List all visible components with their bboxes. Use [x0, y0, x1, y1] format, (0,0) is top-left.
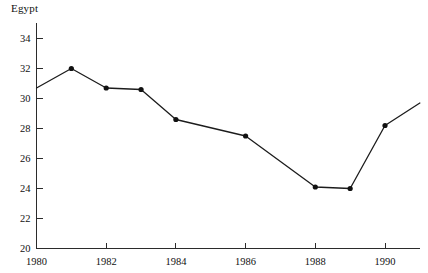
x-tick-label: 1982 — [96, 256, 117, 267]
data-point — [243, 133, 248, 138]
y-tick-label: 32 — [20, 63, 31, 74]
data-point — [173, 117, 178, 122]
y-tick-label: 34 — [20, 33, 31, 44]
x-tick-label: 1990 — [375, 256, 396, 267]
y-axis-tick-labels: 2022242628303234 — [20, 33, 31, 254]
y-tick-label: 26 — [20, 153, 31, 164]
x-tick-label: 1988 — [305, 256, 326, 267]
data-point — [313, 184, 318, 189]
data-series-line — [37, 69, 420, 189]
y-tick-label: 20 — [20, 243, 31, 254]
data-point — [104, 85, 109, 90]
y-axis-ticks — [37, 39, 43, 249]
data-point — [382, 123, 387, 128]
data-point — [348, 186, 353, 191]
data-point-markers — [69, 66, 388, 191]
y-tick-label: 22 — [20, 213, 31, 224]
chart-container: Egypt 2022242628303234 19801982198419861… — [0, 0, 428, 273]
line-chart-plot: 2022242628303234 19801982198419861988199… — [0, 0, 428, 273]
x-axis-tick-labels: 198019821984198619881990 — [26, 256, 396, 267]
x-axis-ticks — [106, 243, 385, 249]
data-point — [69, 66, 74, 71]
x-tick-label: 1986 — [235, 256, 256, 267]
x-tick-label: 1980 — [26, 256, 47, 267]
y-tick-label: 28 — [20, 123, 31, 134]
y-tick-label: 30 — [20, 93, 31, 104]
x-tick-label: 1984 — [165, 256, 187, 267]
y-tick-label: 24 — [20, 183, 31, 194]
data-point — [138, 87, 143, 92]
